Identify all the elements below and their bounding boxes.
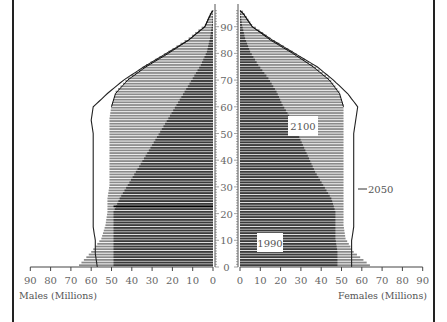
age-tick-label: 40 bbox=[220, 155, 233, 166]
male-tick-label: 70 bbox=[65, 275, 78, 286]
female-tick-label: 10 bbox=[254, 275, 267, 286]
label-2100: 2100 bbox=[288, 116, 318, 136]
females-axis-title: Females (Millions) bbox=[338, 290, 427, 301]
female-tick-label: 80 bbox=[396, 275, 409, 286]
female-tick-label: 0 bbox=[237, 275, 243, 286]
female-tick-label: 60 bbox=[355, 275, 368, 286]
age-tick-label: 0 bbox=[223, 262, 229, 273]
male-tick-label: 20 bbox=[166, 275, 179, 286]
label-1990: 1990 bbox=[257, 233, 283, 252]
age-tick-label: 10 bbox=[220, 235, 233, 246]
female-tick-label: 40 bbox=[315, 275, 328, 286]
male-tick-label: 0 bbox=[210, 275, 216, 286]
year-2100-label: 2100 bbox=[290, 121, 315, 132]
female-tick-label: 70 bbox=[376, 275, 389, 286]
year-1990-label: 1990 bbox=[257, 238, 282, 249]
label-2050: 2050 bbox=[358, 184, 393, 195]
male-tick-label: 10 bbox=[186, 275, 199, 286]
female-tick-label: 30 bbox=[295, 275, 308, 286]
male-tick-label: 90 bbox=[24, 275, 37, 286]
male-bars bbox=[79, 11, 213, 266]
age-tick-label: 70 bbox=[220, 75, 233, 86]
axes: 9080706050403020100010203040506070809001… bbox=[24, 4, 429, 286]
female-bars bbox=[240, 11, 370, 266]
male-tick-label: 30 bbox=[146, 275, 159, 286]
female-tick-label: 50 bbox=[335, 275, 348, 286]
male-tick-label: 60 bbox=[85, 275, 98, 286]
age-tick-label: 30 bbox=[220, 182, 233, 193]
age-tick-label: 50 bbox=[220, 129, 233, 140]
age-tick-label: 80 bbox=[220, 48, 233, 59]
year-2050-label: 2050 bbox=[368, 184, 393, 195]
males-axis-title: Males (Millions) bbox=[19, 290, 97, 301]
male-tick-label: 50 bbox=[105, 275, 118, 286]
female-tick-label: 90 bbox=[416, 275, 429, 286]
age-tick-label: 60 bbox=[220, 102, 233, 113]
male-tick-label: 40 bbox=[125, 275, 138, 286]
age-tick-label: 20 bbox=[220, 209, 233, 220]
female-tick-label: 20 bbox=[274, 275, 287, 286]
male-tick-label: 80 bbox=[44, 275, 57, 286]
age-tick-label: 90 bbox=[220, 22, 233, 33]
population-pyramid-chart: 9080706050403020100010203040506070809001… bbox=[0, 0, 447, 322]
